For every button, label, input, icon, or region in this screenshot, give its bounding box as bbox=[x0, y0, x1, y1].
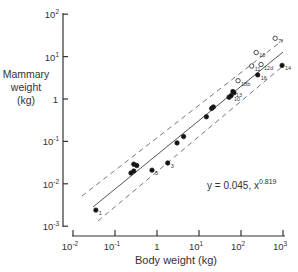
filled-point bbox=[166, 161, 170, 165]
filled-point bbox=[211, 105, 215, 109]
y-label-line-2: weight bbox=[10, 81, 41, 93]
y-tick-label: 1 bbox=[53, 94, 58, 105]
y-tick-label: 10-2 bbox=[43, 178, 60, 190]
y-label-line-3: (kg) bbox=[17, 94, 35, 106]
point-label: 11 bbox=[255, 66, 261, 72]
lower-confidence-line bbox=[98, 66, 283, 221]
point-label: 14 bbox=[285, 65, 291, 71]
filled-point bbox=[94, 208, 98, 212]
filled-point bbox=[132, 169, 136, 173]
upper-confidence-line bbox=[82, 40, 283, 196]
open-point bbox=[250, 64, 254, 68]
point-label: 18b bbox=[241, 81, 250, 87]
point-label: 10 bbox=[234, 96, 240, 102]
filled-point bbox=[256, 73, 260, 77]
open-point bbox=[236, 79, 240, 83]
open-point bbox=[259, 62, 263, 66]
y-tick-label: 10-1 bbox=[43, 135, 60, 147]
filled-point bbox=[135, 163, 139, 167]
filled-point bbox=[150, 168, 154, 172]
x-tick-label: 101 bbox=[189, 240, 204, 252]
x-tick-label: 10-2 bbox=[62, 240, 79, 252]
chart: 102101110-110-210-3 10-210-11101102103 M… bbox=[0, 0, 298, 272]
x-tick-label: 10-1 bbox=[104, 240, 121, 252]
equation: y = 0.045, x0.819 bbox=[207, 178, 277, 191]
x-ticks: 10-210-11101102103 bbox=[62, 230, 288, 252]
open-point bbox=[273, 36, 277, 40]
open-point bbox=[254, 50, 258, 54]
point-label: 16 bbox=[261, 75, 267, 81]
point-label: 3 bbox=[171, 163, 174, 169]
equation-exponent: 0.819 bbox=[259, 178, 277, 185]
y-axis-label: Mammary weight (kg) bbox=[3, 68, 50, 106]
x-axis-label: Body weight (kg) bbox=[135, 254, 217, 266]
point-label: 1 bbox=[99, 210, 102, 216]
filled-point bbox=[175, 141, 179, 145]
point-label: 7f bbox=[278, 38, 283, 44]
filled-point bbox=[181, 134, 185, 138]
y-tick-label: 102 bbox=[45, 8, 60, 20]
point-label: 5 bbox=[155, 170, 158, 176]
svg-text:y = 0.045, x0.819: y = 0.045, x0.819 bbox=[207, 178, 277, 191]
filled-point bbox=[280, 63, 284, 67]
filled-point bbox=[229, 93, 233, 97]
axes bbox=[63, 13, 285, 236]
x-tick-label: 103 bbox=[273, 240, 288, 252]
point-label: 18 bbox=[259, 52, 265, 58]
filled-point bbox=[204, 115, 208, 119]
x-tick-label: 102 bbox=[231, 240, 246, 252]
y-label-line-1: Mammary bbox=[3, 68, 50, 80]
point-label: 12d bbox=[264, 65, 273, 71]
equation-text: y = 0.045, x bbox=[207, 180, 259, 191]
x-tick-label: 1 bbox=[154, 241, 159, 252]
y-tick-label: 10-3 bbox=[43, 220, 60, 232]
y-ticks: 102101110-110-210-3 bbox=[43, 8, 68, 232]
y-tick-label: 101 bbox=[45, 51, 60, 63]
